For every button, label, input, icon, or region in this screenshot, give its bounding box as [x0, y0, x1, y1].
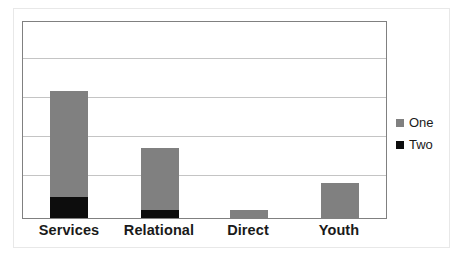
x-axis-label-relational: Relational: [111, 222, 207, 238]
bar-relational[interactable]: [141, 148, 179, 218]
legend-swatch-icon: [396, 119, 404, 127]
bar-youth[interactable]: [321, 183, 359, 218]
bar-segment-two: [50, 197, 88, 218]
gridline-4: [23, 58, 386, 59]
bar-services[interactable]: [50, 91, 88, 218]
bar-segment-two: [141, 210, 179, 218]
legend-label-two: Two: [409, 137, 433, 152]
chart-legend: One Two: [396, 113, 454, 157]
bar-segment-one: [141, 148, 179, 210]
legend-swatch-icon: [396, 141, 404, 149]
x-axis-label-direct: Direct: [208, 222, 288, 238]
x-axis-label-youth: Youth: [299, 222, 379, 238]
legend-item-two[interactable]: Two: [396, 135, 454, 154]
x-axis-label-services: Services: [24, 222, 114, 238]
bar-segment-one: [50, 91, 88, 197]
plot-area: [22, 21, 387, 219]
bar-segment-one: [321, 183, 359, 218]
bar-direct[interactable]: [230, 210, 268, 218]
legend-item-one[interactable]: One: [396, 113, 454, 132]
legend-label-one: One: [409, 115, 434, 130]
bar-segment-one: [230, 210, 268, 218]
chart-screenshot: Services Relational Direct Youth One Two: [0, 0, 463, 263]
